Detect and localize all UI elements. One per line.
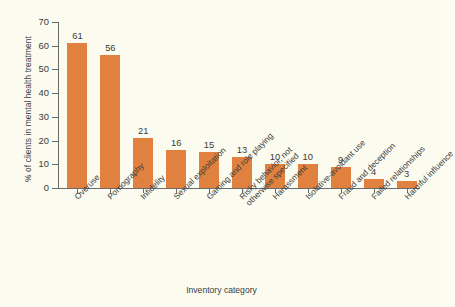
bar-value-label: 61: [57, 30, 97, 41]
x-axis-title: Inventory category: [0, 285, 443, 295]
y-tick-label: 50: [3, 63, 49, 74]
bar-value-label: 56: [90, 42, 130, 53]
y-tick-label: 0: [3, 182, 49, 193]
y-tick-label: 70: [3, 16, 49, 27]
y-tick-label: 30: [3, 111, 49, 122]
bar: [100, 55, 120, 188]
y-tick-label: 60: [3, 40, 49, 51]
bar: [67, 43, 87, 188]
bar-value-label: 21: [123, 125, 163, 136]
y-tick-label: 20: [3, 135, 49, 146]
y-tick-label: 40: [3, 87, 49, 98]
y-tick-label: 10: [3, 158, 49, 169]
